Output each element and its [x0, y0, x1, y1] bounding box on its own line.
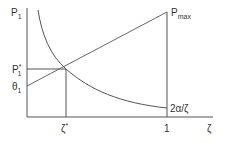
p-star-label: P*1	[12, 63, 22, 77]
theta-label: θ1	[12, 81, 22, 94]
p-max-label: Pmax	[171, 7, 191, 20]
linear-price-line	[27, 12, 167, 86]
x-axis-label: ζ	[207, 123, 212, 135]
diagram-canvas: P1 Pmax P*1 θ1 ζ* 1 ζ 2α/ζ	[0, 0, 249, 143]
hyperbola-curve	[38, 10, 167, 108]
one-label: 1	[164, 123, 170, 134]
curve-label: 2α/ζ	[170, 103, 189, 115]
y-axis-label: P1	[11, 7, 22, 20]
zeta-star-label: ζ*	[61, 122, 68, 135]
